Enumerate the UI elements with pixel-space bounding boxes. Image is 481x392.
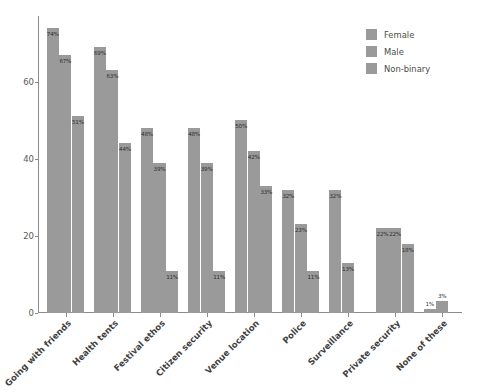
bar[interactable]: 42% [248,151,260,313]
bar-value-label: 39% [201,166,213,172]
bar-value-label: 1% [424,301,436,307]
bar-value-label: 11% [213,274,225,280]
bar-value-label: 74% [47,31,59,37]
bar-value-label: 13% [342,266,354,272]
x-tick-mark [348,313,349,317]
y-tick-mark [35,236,38,237]
y-tick-label: 40 [8,154,34,164]
y-tick-mark [35,82,38,83]
chart-legend: FemaleMaleNon-binary [366,26,476,77]
x-tick-mark [66,313,67,317]
bar-chart: 74%67%51%69%63%44%48%39%11%48%39%11%50%4… [0,0,481,392]
bar[interactable]: 39% [201,163,213,313]
bar-group: 50%42%33% [235,16,273,313]
y-tick-label: 60 [8,77,34,87]
bar[interactable]: 44% [119,143,131,313]
bar-value-label: 51% [72,119,84,125]
bar[interactable]: 51% [72,116,84,313]
bar[interactable]: 69% [94,47,106,313]
bar-value-label: 48% [141,131,153,137]
x-tick-mark [207,313,208,317]
bar[interactable]: 23% [295,224,307,313]
bar[interactable]: 18% [402,244,414,313]
bar-value-label: 22% [376,231,388,237]
bar-value-label: 50% [235,123,247,129]
bar-value-label: 33% [260,189,272,195]
bar[interactable]: 11% [166,271,178,313]
x-tick-mark [301,313,302,317]
bar[interactable]: 3% [436,301,448,313]
bar[interactable]: 1% [424,309,436,313]
y-tick-label: 20 [8,231,34,241]
y-tick-mark [35,313,38,314]
bar[interactable]: 50% [235,120,247,313]
bar[interactable]: 22% [376,228,388,313]
bar[interactable]: 22% [389,228,401,313]
bar-value-label: 48% [188,131,200,137]
y-tick-label: 0 [8,308,34,318]
bar[interactable]: 48% [188,128,200,313]
bar-group: 48%39%11% [188,16,226,313]
bar[interactable]: 63% [106,70,118,313]
bar[interactable]: 11% [213,271,225,313]
x-tick-mark [160,313,161,317]
bar-value-label: 63% [106,73,118,79]
bar-value-label: 32% [329,193,341,199]
bar[interactable]: 13% [342,263,354,313]
legend-swatch-icon [366,46,377,57]
bar[interactable]: 74% [47,28,59,313]
bar-value-label: 11% [166,274,178,280]
bar-value-label: 23% [295,227,307,233]
bar-group: 32%13% [329,16,367,313]
legend-swatch-icon [366,63,377,74]
x-tick-mark [254,313,255,317]
bar-value-label: 3% [436,293,448,299]
bar[interactable]: 11% [307,271,319,313]
x-axis-labels: Going with friendsHealth tentsFestival e… [38,318,462,392]
bar[interactable]: 48% [141,128,153,313]
bar-group: 74%67%51% [47,16,85,313]
bar-value-label: 67% [59,58,71,64]
bar-value-label: 11% [307,274,319,280]
bar-value-label: 69% [94,50,106,56]
bar[interactable]: 39% [153,163,165,313]
bar-value-label: 44% [119,146,131,152]
bar-value-label: 22% [389,231,401,237]
x-tick-mark [113,313,114,317]
x-tick-mark [442,313,443,317]
bar-group: 32%23%11% [282,16,320,313]
bar[interactable]: 32% [282,190,294,313]
legend-item[interactable]: Female [366,26,476,43]
x-tick-mark [395,313,396,317]
bar-value-label: 39% [153,166,165,172]
bar-value-label: 42% [248,154,260,160]
bar-value-label: 18% [402,247,414,253]
legend-swatch-icon [366,29,377,40]
bar[interactable]: 67% [59,55,71,313]
legend-label: Female [384,30,414,40]
bar-group: 48%39%11% [141,16,179,313]
bar[interactable]: 32% [329,190,341,313]
legend-label: Male [384,47,404,57]
y-tick-mark [35,159,38,160]
bar-value-label: 32% [282,193,294,199]
legend-item[interactable]: Male [366,43,476,60]
legend-item[interactable]: Non-binary [366,60,476,77]
legend-label: Non-binary [384,64,430,74]
bar[interactable]: 33% [260,186,272,313]
bar-group: 69%63%44% [94,16,132,313]
